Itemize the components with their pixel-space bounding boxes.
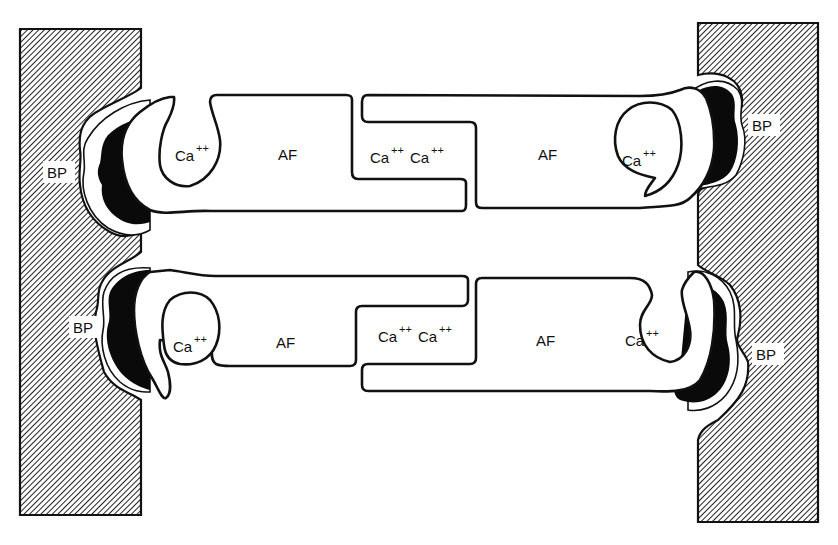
top-right-af-label: AF (538, 146, 557, 163)
bottom-right-ca-charge: ++ (646, 327, 659, 339)
top-center-ca2-charge: ++ (431, 144, 444, 156)
top-right-bp-text: BP (752, 117, 772, 134)
bottom-right-bp-label: BP (752, 343, 784, 365)
top-left-bp-text: BP (47, 164, 67, 181)
top-center-ca2-text: Ca (410, 149, 430, 166)
bottom-right-af-label: AF (536, 332, 555, 349)
bottom-center-ca2-charge: ++ (439, 323, 452, 335)
top-left-ca-text: Ca (175, 147, 195, 164)
top-left-af-label: AF (278, 146, 297, 163)
top-left-ca-charge: ++ (196, 142, 209, 154)
top-center-ca1-charge: ++ (391, 144, 404, 156)
bottom-left-bp-label: BP (69, 316, 101, 338)
bottom-center-ca1-text: Ca (378, 328, 398, 345)
top-left-ca-label: Ca ++ (175, 142, 209, 164)
bottom-right-bp-text: BP (756, 346, 776, 363)
bottom-center-ca-pair-label: Ca ++ Ca ++ (378, 323, 452, 345)
top-center-ca1-text: Ca (370, 149, 390, 166)
top-left-bp-label: BP (43, 161, 75, 183)
diagram-canvas: BP Ca ++ AF Ca ++ Ca ++ AF Ca ++ BP BP C… (0, 0, 838, 545)
bottom-left-ca-text: Ca (173, 338, 193, 355)
top-center-ca-pair-label: Ca ++ Ca ++ (370, 144, 444, 166)
bottom-left-ca-charge: ++ (194, 333, 207, 345)
bottom-center-ca1-charge: ++ (399, 323, 412, 335)
top-right-bp-label: BP (748, 114, 780, 136)
bottom-left-af-label: AF (276, 334, 295, 351)
bottom-right-ca-text: Ca (625, 332, 645, 349)
top-right-ca-charge: ++ (643, 147, 656, 159)
bottom-center-ca2-text: Ca (418, 328, 438, 345)
bottom-left-bp-text: BP (73, 319, 93, 336)
top-right-ca-text: Ca (622, 152, 642, 169)
